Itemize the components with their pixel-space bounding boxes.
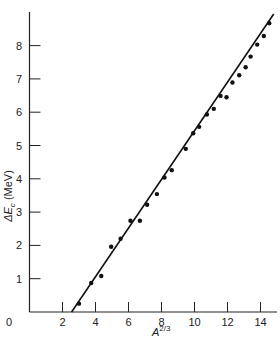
y-axis-title: ΔEc (MeV) bbox=[2, 170, 17, 223]
data-point bbox=[89, 281, 93, 285]
y-tick-label: 7 bbox=[16, 73, 22, 85]
y-tick-label: 2 bbox=[16, 239, 22, 251]
y-tick-label: 1 bbox=[16, 273, 22, 285]
data-point bbox=[109, 245, 113, 249]
data-point bbox=[145, 203, 149, 207]
data-point bbox=[184, 147, 188, 151]
data-point bbox=[197, 125, 201, 129]
data-point bbox=[262, 34, 266, 38]
axes bbox=[30, 12, 278, 312]
data-points bbox=[77, 21, 272, 306]
data-point bbox=[162, 175, 166, 179]
x-tick-label: 2 bbox=[59, 316, 65, 328]
data-point bbox=[230, 80, 234, 84]
data-point bbox=[243, 65, 247, 69]
x-tick-label: 12 bbox=[221, 316, 233, 328]
data-point bbox=[205, 112, 209, 116]
y-tick-label: 4 bbox=[16, 173, 22, 185]
data-point bbox=[99, 274, 103, 278]
y-tick-label: 8 bbox=[16, 40, 22, 52]
data-point bbox=[138, 219, 142, 223]
x-tick-label: 4 bbox=[92, 316, 98, 328]
data-point bbox=[267, 21, 271, 25]
data-point bbox=[237, 73, 241, 77]
data-point bbox=[248, 54, 252, 58]
data-point bbox=[77, 301, 81, 305]
x-tick-label: 0 bbox=[6, 316, 12, 328]
fit-line bbox=[72, 14, 274, 312]
data-point bbox=[255, 42, 259, 46]
x-axis-title: A2/3 bbox=[151, 324, 171, 338]
x-tick-label: 14 bbox=[254, 316, 266, 328]
data-point bbox=[170, 168, 174, 172]
data-point bbox=[224, 95, 228, 99]
data-point bbox=[212, 107, 216, 111]
fit-line-segment bbox=[72, 14, 274, 312]
data-point bbox=[191, 131, 195, 135]
y-tick-label: 5 bbox=[16, 140, 22, 152]
data-point bbox=[118, 237, 122, 241]
y-tick-label: 6 bbox=[16, 106, 22, 118]
x-tick-label: 6 bbox=[125, 316, 131, 328]
chart: 0246810121412345678 A2/3 ΔEc (MeV) bbox=[0, 0, 280, 344]
data-point bbox=[128, 219, 132, 223]
data-point bbox=[218, 94, 222, 98]
x-tick-label: 10 bbox=[188, 316, 200, 328]
data-point bbox=[155, 192, 159, 196]
